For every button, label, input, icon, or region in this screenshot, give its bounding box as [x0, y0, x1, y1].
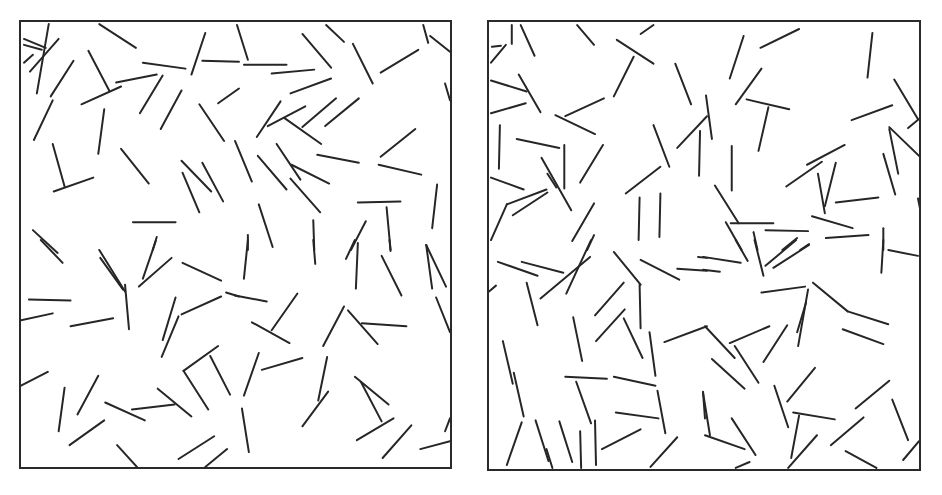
- line-segment: [285, 118, 322, 144]
- line-segment: [362, 323, 407, 326]
- line-segment: [357, 418, 394, 440]
- line-segment: [735, 346, 759, 383]
- line-segment: [640, 285, 641, 329]
- line-segment: [235, 141, 252, 182]
- line-segment: [514, 373, 524, 417]
- line-segment: [846, 451, 877, 468]
- left-panel-segments: [21, 22, 450, 467]
- line-segment: [70, 420, 105, 445]
- line-segment: [675, 64, 691, 105]
- line-segment: [182, 161, 212, 192]
- line-segment: [353, 44, 373, 84]
- line-segment: [98, 109, 104, 154]
- line-segment: [436, 298, 450, 333]
- line-segment: [268, 106, 306, 126]
- line-segment: [616, 412, 659, 418]
- line-segment: [132, 405, 175, 410]
- line-segment: [210, 356, 230, 395]
- line-segment: [346, 240, 355, 259]
- line-segment: [614, 377, 656, 386]
- line-segment: [259, 204, 273, 247]
- line-segment: [761, 287, 805, 293]
- line-segment: [272, 294, 298, 331]
- line-segment: [140, 76, 163, 114]
- line-segment: [503, 341, 513, 384]
- line-segment: [812, 216, 853, 228]
- line-segment: [595, 283, 624, 316]
- line-segment: [659, 193, 660, 237]
- line-segment: [892, 400, 908, 441]
- line-segment: [867, 33, 872, 78]
- line-segment: [54, 178, 94, 192]
- line-segment: [183, 371, 208, 410]
- line-segment: [555, 115, 595, 134]
- line-segment: [650, 437, 677, 467]
- line-segment: [71, 318, 114, 326]
- line-segment: [807, 145, 845, 165]
- line-segment: [205, 449, 227, 467]
- line-segment: [235, 296, 267, 302]
- line-segment: [541, 257, 591, 299]
- line-segment: [699, 131, 700, 176]
- line-segment: [517, 139, 560, 148]
- line-segment: [379, 165, 422, 175]
- line-segment: [908, 118, 919, 128]
- line-segment: [390, 240, 391, 251]
- line-segment: [798, 290, 808, 346]
- line-segment: [326, 25, 344, 42]
- line-segment: [521, 25, 535, 56]
- line-segment: [755, 240, 764, 276]
- line-segment: [355, 377, 389, 405]
- line-segment: [641, 260, 680, 280]
- line-segment: [736, 240, 748, 261]
- line-segment: [826, 235, 869, 238]
- line-segment: [302, 98, 336, 127]
- line-segment: [430, 36, 450, 52]
- line-segment: [277, 144, 301, 180]
- line-segment: [358, 201, 401, 202]
- line-segment: [202, 163, 223, 202]
- line-segment: [730, 36, 744, 79]
- line-segment: [559, 421, 572, 462]
- line-segment: [302, 392, 328, 427]
- line-segment: [33, 230, 58, 253]
- line-segment: [252, 322, 290, 343]
- figure: [0, 0, 942, 495]
- line-segment: [272, 70, 315, 74]
- line-segment: [163, 298, 176, 341]
- line-segment: [773, 245, 809, 268]
- line-segment: [580, 431, 581, 468]
- line-segment: [677, 116, 707, 148]
- line-segment: [664, 326, 707, 342]
- line-segment: [492, 46, 501, 47]
- line-segment: [703, 257, 741, 263]
- line-segment: [580, 145, 603, 183]
- line-segment: [290, 179, 320, 213]
- line-segment: [88, 51, 109, 91]
- line-segment: [143, 63, 186, 69]
- line-segment: [139, 258, 172, 287]
- line-segment: [576, 382, 591, 424]
- line-segment: [786, 162, 822, 187]
- line-segment: [218, 88, 239, 103]
- line-segment: [244, 353, 259, 396]
- line-segment: [491, 178, 524, 190]
- line-segment: [317, 155, 359, 163]
- line-segment: [125, 285, 129, 330]
- line-segment: [852, 105, 893, 120]
- line-segment: [242, 408, 249, 452]
- line-segment: [565, 98, 604, 116]
- line-segment: [237, 25, 248, 60]
- line-segment: [617, 40, 654, 64]
- line-segment: [383, 425, 412, 458]
- line-segment: [836, 197, 879, 202]
- line-segment: [121, 149, 149, 184]
- line-segment: [262, 358, 303, 370]
- line-segment: [356, 243, 358, 289]
- line-segment: [565, 377, 607, 379]
- line-segment: [29, 299, 71, 300]
- line-segment: [856, 381, 890, 409]
- line-segment: [791, 415, 799, 458]
- line-segment: [432, 185, 437, 229]
- line-segment: [258, 156, 287, 190]
